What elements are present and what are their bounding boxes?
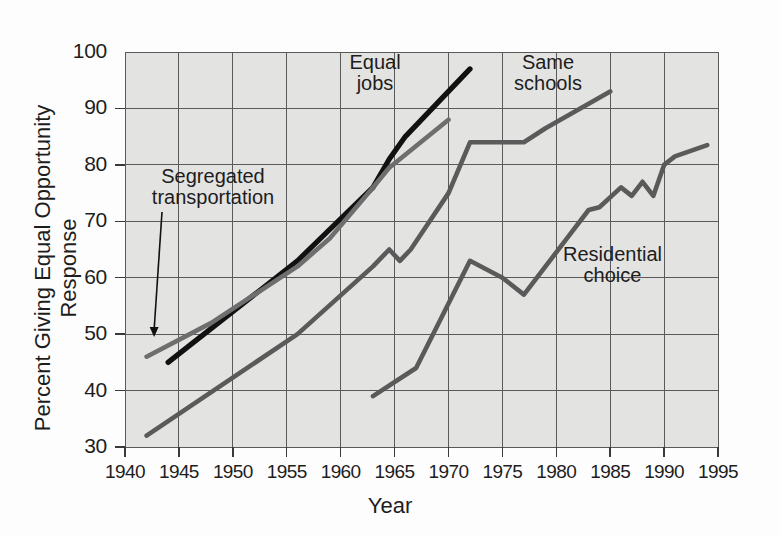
x-tick-1995: 1995 — [690, 461, 746, 483]
chart-figure: 30405060708090100 1940194519501955196019… — [0, 0, 780, 537]
annotation-arrow — [150, 212, 162, 337]
series-label-residential-choice: Residential choice — [540, 244, 685, 287]
x-tick-1955: 1955 — [259, 461, 315, 483]
x-tick-1950: 1950 — [205, 461, 261, 483]
series-label-same-schools: Same schools — [488, 52, 608, 95]
x-tick-1970: 1970 — [420, 461, 476, 483]
series-line-segregated-transportation — [147, 120, 449, 357]
x-axis-title: Year — [0, 493, 780, 519]
series-line-equal-jobs — [168, 69, 470, 363]
y-axis-title: Percent Giving Equal Opportunity Respons… — [30, 58, 82, 478]
x-tick-1960: 1960 — [313, 461, 369, 483]
x-tick-1965: 1965 — [367, 461, 423, 483]
x-tick-1980: 1980 — [528, 461, 584, 483]
x-tick-1990: 1990 — [636, 461, 692, 483]
x-tick-1985: 1985 — [582, 461, 638, 483]
x-tick-1975: 1975 — [474, 461, 530, 483]
x-tick-1945: 1945 — [151, 461, 207, 483]
series-label-segregated-transportation: Segregated transportation — [128, 166, 298, 209]
series-label-equal-jobs: Equal jobs — [320, 52, 430, 95]
x-tick-1940: 1940 — [97, 461, 153, 483]
